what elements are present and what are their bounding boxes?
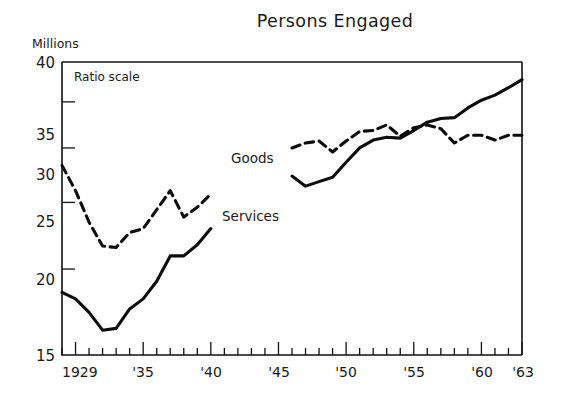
ytick-label-15: 15 (36, 347, 55, 365)
y-axis-tick-labels: 15 20 25 30 35 40 (36, 54, 55, 365)
series-paths-group (62, 80, 522, 330)
ytick-label-30: 30 (36, 166, 55, 184)
series-label-goods: Goods (231, 150, 274, 166)
persons-engaged-line-chart: Persons Engaged Millions Ratio scale 15 … (0, 0, 572, 414)
ytick-label-25: 25 (36, 213, 55, 231)
ytick-label-20: 20 (36, 271, 55, 289)
ytick-label-40: 40 (36, 54, 55, 72)
xtick-label-40: '40 (200, 364, 222, 380)
chart-title: Persons Engaged (257, 11, 413, 31)
xtick-label-45: '45 (268, 364, 290, 380)
series-line-goods-segment-0 (62, 165, 211, 247)
xtick-label-63: '63 (512, 364, 534, 380)
xtick-label-55: '55 (403, 364, 425, 380)
xtick-label-60: '60 (471, 364, 493, 380)
xtick-label-35: '35 (132, 364, 154, 380)
chart-figure: Persons Engaged Millions Ratio scale 15 … (0, 0, 572, 414)
series-label-services: Services (222, 208, 279, 224)
series-line-services-segment-0 (62, 229, 211, 331)
y-axis-unit-label: Millions (32, 36, 79, 51)
ytick-label-35: 35 (36, 126, 55, 144)
plot-frame (62, 62, 522, 355)
series-line-services-segment-1 (292, 80, 522, 186)
ratio-scale-annotation: Ratio scale (74, 70, 140, 84)
series-line-goods-segment-1 (292, 125, 522, 152)
x-axis-tick-marks (62, 342, 522, 355)
xtick-label-1929: 1929 (62, 364, 98, 380)
x-axis-tick-labels: 1929 '35 '40 '45 '50 '55 '60 '63 (62, 364, 534, 380)
xtick-label-50: '50 (335, 364, 357, 380)
